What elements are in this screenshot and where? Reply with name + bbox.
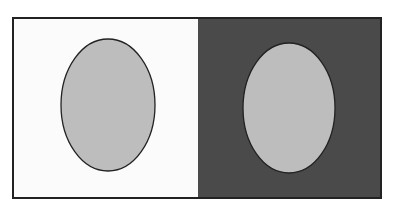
right-gray-ellipse <box>243 43 335 173</box>
contrast-diagram <box>0 0 393 211</box>
left-gray-ellipse <box>61 39 155 171</box>
